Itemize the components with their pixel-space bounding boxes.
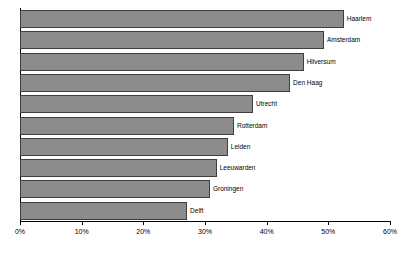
bar-row: Utrecht xyxy=(20,95,390,113)
bar-row: Delft xyxy=(20,202,390,220)
bar-value-label: Haarlem xyxy=(347,16,372,23)
bar-row: Groningen xyxy=(20,180,390,198)
bar-value-label: Leeuwarden xyxy=(220,165,256,172)
bar-row: Den Haag xyxy=(20,74,390,92)
bar-row: Hilversum xyxy=(20,53,390,71)
x-axis-tick xyxy=(328,221,329,225)
x-axis-tick-label: 20% xyxy=(136,228,150,235)
x-axis-tick xyxy=(20,221,21,225)
x-axis-tick xyxy=(82,221,83,225)
bar-value-label: Groningen xyxy=(213,186,243,193)
x-axis-tick-label: 50% xyxy=(321,228,335,235)
bar xyxy=(20,117,234,135)
bar-chart: HaarlemAmsterdamHilversumDen HaagUtrecht… xyxy=(0,0,411,262)
bar-value-label: Rotterdam xyxy=(237,122,267,129)
x-axis-tick xyxy=(390,221,391,225)
x-axis-tick xyxy=(267,221,268,225)
bar xyxy=(20,159,217,177)
bar-value-label: Amsterdam xyxy=(327,37,360,44)
x-axis-tick-label: 0% xyxy=(15,228,25,235)
bar-row: Leiden xyxy=(20,138,390,156)
bar xyxy=(20,95,253,113)
bar xyxy=(20,10,344,28)
x-axis-tick xyxy=(143,221,144,225)
bar xyxy=(20,180,210,198)
bar-value-label: Utrecht xyxy=(256,101,277,108)
bar-value-label: Den Haag xyxy=(293,80,322,87)
bar-row: Leeuwarden xyxy=(20,159,390,177)
bar xyxy=(20,138,228,156)
bar xyxy=(20,202,187,220)
x-axis-tick-label: 60% xyxy=(383,228,397,235)
bar-value-label: Leiden xyxy=(231,144,251,151)
bar xyxy=(20,31,324,49)
bar-row: Haarlem xyxy=(20,10,390,28)
bar-row: Amsterdam xyxy=(20,31,390,49)
bar xyxy=(20,74,290,92)
bar-row: Rotterdam xyxy=(20,117,390,135)
bar-value-label: Hilversum xyxy=(307,58,336,65)
x-axis-tick-label: 10% xyxy=(75,228,89,235)
x-axis-tick xyxy=(205,221,206,225)
bar xyxy=(20,53,304,71)
x-axis-tick-label: 30% xyxy=(198,228,212,235)
x-axis-tick-label: 40% xyxy=(260,228,274,235)
bar-value-label: Delft xyxy=(190,207,203,214)
